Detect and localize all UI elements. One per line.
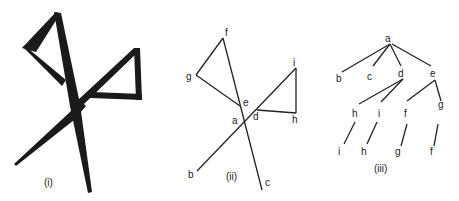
edge-e-g [435,80,441,101]
label-d: d [253,111,259,122]
tree-node-c: c [367,71,372,82]
label-e: e [243,97,249,108]
label-f: f [225,27,228,38]
right-loop-bottom [90,92,142,100]
edge-d-h [359,79,403,104]
figure-canvas: (i) f g e a d i h b c (ii) a b c d e h i… [0,0,459,201]
label-c: c [265,177,270,188]
tree-node-h: h [352,108,358,119]
edge-a-c [373,44,390,66]
main-stroke [54,12,92,193]
line-f-g [196,38,223,75]
tree-node-a: a [385,33,391,44]
tree-node-e: e [430,68,436,79]
caption-iii: (iii) [374,163,387,174]
edge-e-f [407,80,435,101]
label-a: a [232,115,238,126]
tree-leaf-f: f [430,146,433,157]
tree-node-b: b [336,73,342,84]
caption-i: (i) [44,177,53,188]
left-loop-top-edge [22,12,60,52]
tree-node-g: g [438,99,444,110]
line-b-i [197,68,296,171]
edge-i-h [367,122,377,144]
label-b: b [188,169,194,180]
tree-leaf-h: h [361,146,367,157]
right-loop-vertical [134,48,142,100]
tree-node-d: d [398,68,404,79]
sweep-stroke [14,100,86,166]
panel-i-pictogram [14,12,142,193]
label-h: h [292,114,298,125]
tree-node-i: i [378,108,380,119]
panel-ii-diagram [196,38,296,190]
edge-d-i [381,79,403,102]
line-d-h [257,110,296,113]
edge-h-i [344,122,355,144]
edge-f-g [401,124,407,146]
edge-a-b [342,44,390,72]
caption-ii: (ii) [226,171,237,182]
tree-leaf-i: i [338,146,340,157]
left-loop-bottom-edge [22,46,66,86]
panel-iii-tree [342,44,441,146]
edge-a-d [390,44,401,66]
edge-g-f [434,124,438,146]
edge-a-e [392,44,431,66]
label-g: g [186,71,192,82]
tree-node-f: f [404,108,407,119]
label-i: i [293,57,295,68]
tree-leaf-g: g [395,146,401,157]
